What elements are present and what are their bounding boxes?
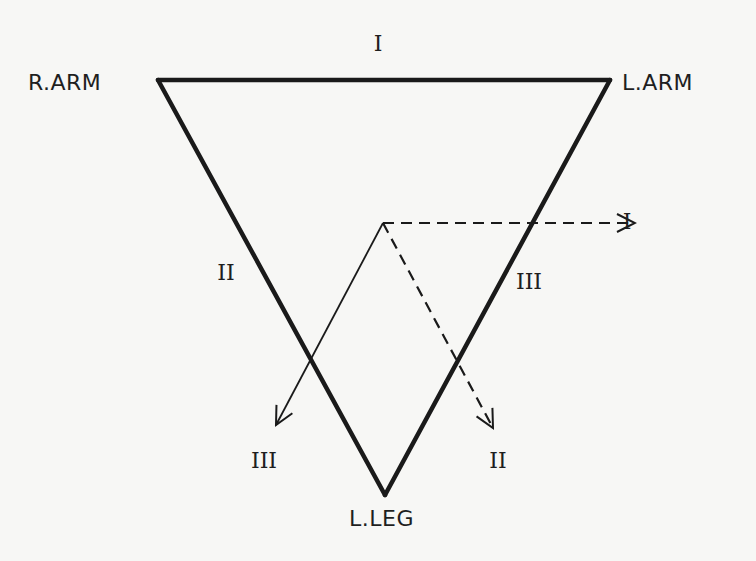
side-label-lead-iii: III <box>516 271 542 293</box>
vector-label-lead-ii: II <box>489 450 506 472</box>
vertex-label-l-arm: L.ARM <box>622 72 693 94</box>
lead-ii-side <box>158 80 385 495</box>
side-label-lead-ii: II <box>217 262 234 284</box>
side-label-lead-i: I <box>374 33 383 55</box>
vector-label-lead-i: I <box>623 211 632 233</box>
vertex-label-r-arm: R.ARM <box>28 72 101 94</box>
vertex-label-l-leg: L.LEG <box>349 508 414 530</box>
vector-label-lead-iii: III <box>251 450 277 472</box>
